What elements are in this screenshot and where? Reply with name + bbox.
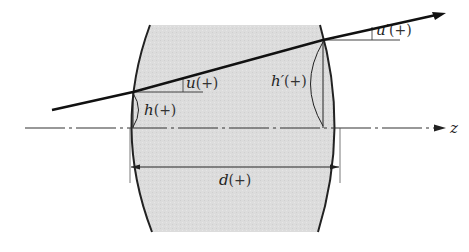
axis-label-z: z xyxy=(449,119,458,137)
d-arrow-right-icon xyxy=(330,165,339,170)
axis-arrow-icon xyxy=(434,125,446,132)
label-h-prime: h′(+) xyxy=(271,72,307,90)
thick-lens-diagram: z d(+) h(+) h′(+) u(+) u′(+) xyxy=(0,0,469,252)
label-d: d(+) xyxy=(219,171,251,189)
ray-arrow-icon xyxy=(432,12,446,20)
label-h: h(+) xyxy=(144,101,176,119)
